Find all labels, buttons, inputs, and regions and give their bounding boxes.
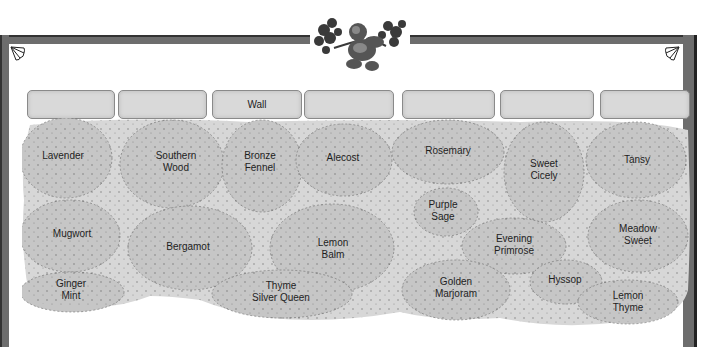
plant-label-lemon-thyme: Lemon Thyme: [613, 290, 644, 314]
plant-label-mugwort: Mugwort: [53, 228, 91, 240]
plant-label-southern-wood: Southern Wood: [156, 150, 197, 174]
wall-brick: [500, 90, 594, 119]
wall-brick: [27, 90, 115, 119]
plant-label-thyme-silver-queen: Thyme Silver Queen: [252, 280, 310, 304]
leaf-corner-icon: [10, 46, 26, 62]
cherub-with-branches-icon: [310, 8, 410, 76]
herb-garden-bed: [22, 118, 690, 330]
plant-label-evening-primrose: Evening Primrose: [494, 233, 534, 257]
wall-brick: [600, 90, 690, 119]
plant-label-sweet-cicely: Sweet Cicely: [530, 158, 558, 182]
plant-label-bergamot: Bergamot: [166, 241, 209, 253]
plant-label-hyssop: Hyssop: [548, 274, 581, 286]
plant-label-lavender: Lavender: [42, 150, 84, 162]
wall-label-brick: Wall: [212, 90, 302, 119]
frame-left-border: [0, 35, 9, 347]
wall-brick: [304, 90, 394, 119]
wall-brick: [118, 90, 207, 119]
plant-label-lemon-balm: Lemon Balm: [318, 237, 349, 261]
plant-label-purple-sage: Purple Sage: [429, 199, 458, 223]
wall-brick: [402, 90, 495, 119]
leaf-corner-icon: [664, 46, 680, 62]
plant-label-golden-marjoram: Golden Marjoram: [435, 276, 477, 300]
plant-label-bronze-fennel: Bronze Fennel: [244, 150, 276, 174]
plant-label-meadow-sweet: Meadow Sweet: [619, 223, 657, 247]
plant-label-alecost: Alecost: [327, 152, 360, 164]
plant-label-ginger-mint: Ginger Mint: [56, 278, 86, 302]
plant-label-rosemary: Rosemary: [425, 145, 471, 157]
plant-label-tansy: Tansy: [624, 154, 650, 166]
